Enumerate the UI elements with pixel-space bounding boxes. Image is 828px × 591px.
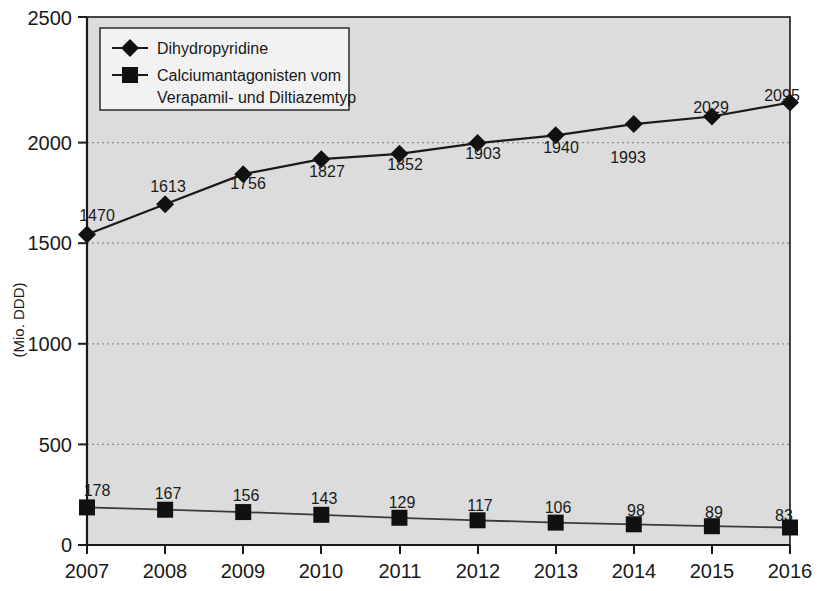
x-tick-label-2008: 2008 xyxy=(143,560,188,582)
legend-label-dihydropyridine: Dihydropyridine xyxy=(157,40,268,57)
point-label-s2-2008: 167 xyxy=(155,485,182,502)
x-tick-label-2010: 2010 xyxy=(299,560,344,582)
x-axis-ticks xyxy=(87,545,790,554)
chart-legend: Dihydropyridine Calciumantagonisten vom … xyxy=(100,28,356,110)
point-label-s1-2014: 1993 xyxy=(610,149,646,166)
square-marker-icon xyxy=(157,502,173,518)
point-label-s1-2010: 1827 xyxy=(309,163,345,180)
point-label-s2-2014: 98 xyxy=(627,502,645,519)
y-tick-label-500: 500 xyxy=(39,434,72,456)
y-tick-label-0: 0 xyxy=(61,534,72,556)
square-marker-icon xyxy=(79,499,95,515)
x-tick-label-2007: 2007 xyxy=(65,560,110,582)
legend-label-calciumantagonisten-line2: Verapamil- und Diltiazemtyp xyxy=(157,89,356,106)
point-label-s2-2007: 178 xyxy=(84,482,111,499)
x-tick-label-2011: 2011 xyxy=(378,560,421,582)
point-label-s2-2013: 106 xyxy=(545,499,572,516)
square-marker-icon xyxy=(122,67,138,83)
point-label-s2-2010: 143 xyxy=(311,490,338,507)
point-label-s1-2015: 2029 xyxy=(693,99,729,116)
point-label-s1-2007: 1470 xyxy=(79,207,115,224)
y-tick-label-1000: 1000 xyxy=(28,333,73,355)
legend-label-calciumantagonisten-line1: Calciumantagonisten vom xyxy=(157,67,341,84)
x-tick-label-2013: 2013 xyxy=(534,560,579,582)
point-label-s1-2013: 1940 xyxy=(543,139,579,156)
x-tick-label-2015: 2015 xyxy=(690,560,735,582)
point-label-s2-2011: 129 xyxy=(389,494,416,511)
square-marker-icon xyxy=(313,507,329,523)
point-label-s2-2015: 89 xyxy=(705,504,723,521)
point-label-s1-2016: 2095 xyxy=(764,87,800,104)
point-label-s2-2009: 156 xyxy=(233,487,260,504)
y-axis-title: (Mio. DDD) xyxy=(10,283,27,358)
x-tick-label-2016: 2016 xyxy=(768,560,813,582)
chart-container: 0 500 1000 1500 2000 2500 (Mio. DDD) 200… xyxy=(0,0,828,591)
y-tick-label-1500: 1500 xyxy=(28,232,73,254)
point-label-s1-2011: 1852 xyxy=(387,156,423,173)
point-label-s1-2009: 1756 xyxy=(230,175,266,192)
y-tick-label-2500: 2500 xyxy=(28,7,73,29)
square-marker-icon xyxy=(391,510,407,526)
x-tick-label-2012: 2012 xyxy=(456,560,501,582)
x-tick-label-2014: 2014 xyxy=(612,560,657,582)
point-label-s1-2012: 1903 xyxy=(465,145,501,162)
point-label-s1-2008: 1613 xyxy=(150,178,186,195)
y-axis-ticks xyxy=(78,17,87,545)
line-chart: 0 500 1000 1500 2000 2500 (Mio. DDD) 200… xyxy=(0,0,828,591)
square-marker-icon xyxy=(235,504,251,520)
square-marker-icon xyxy=(548,515,564,531)
square-marker-icon xyxy=(470,512,486,528)
point-label-s2-2016: 83 xyxy=(775,507,793,524)
x-tick-label-2009: 2009 xyxy=(221,560,266,582)
y-tick-label-2000: 2000 xyxy=(28,132,73,154)
point-label-s2-2012: 117 xyxy=(467,497,493,514)
